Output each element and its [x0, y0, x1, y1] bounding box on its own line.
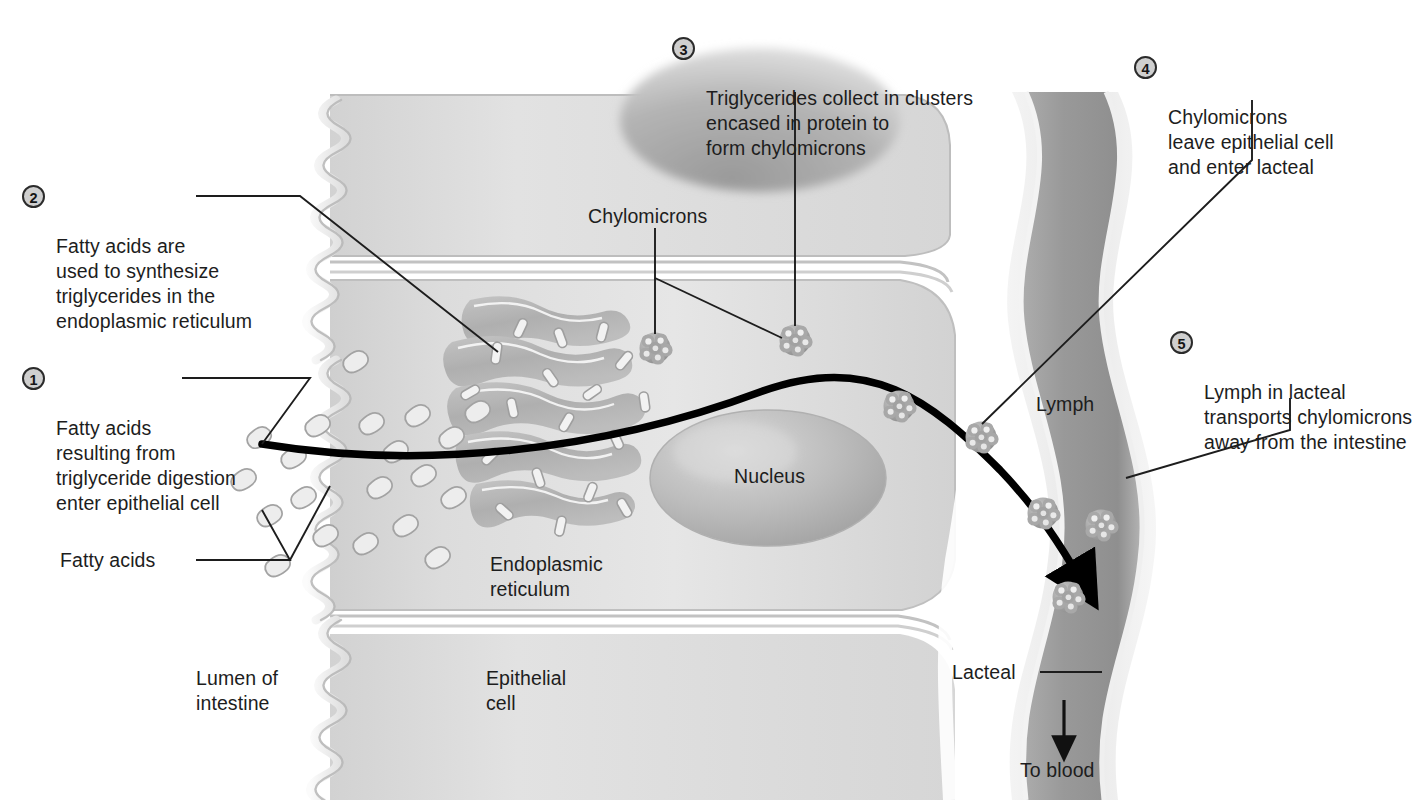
- label-lacteal: Lacteal: [952, 660, 1016, 685]
- label-nucleus: Nucleus: [734, 464, 805, 489]
- callout-step-5-text: Lymph in lacteal transports chylomicrons…: [1204, 381, 1412, 453]
- callout-step-4: 4 Chylomicrons leave epithelial cell and…: [1134, 55, 1412, 180]
- label-lumen-of-intestine: Lumen of intestine: [196, 666, 278, 716]
- callout-step-1-text: Fatty acids resulting from triglyceride …: [56, 417, 236, 514]
- step-badge-5: 5: [1170, 331, 1193, 354]
- label-epithelial-cell: Epithelial cell: [486, 666, 566, 716]
- label-chylomicrons: Chylomicrons: [588, 204, 707, 229]
- step-badge-1: 1: [22, 367, 45, 390]
- callout-step-1: 1 Fatty acids resulting from triglycerid…: [22, 366, 306, 516]
- step-badge-3: 3: [672, 37, 695, 60]
- label-lymph: Lymph: [1036, 392, 1094, 417]
- diagram-canvas: 1 Fatty acids resulting from triglycerid…: [0, 0, 1412, 800]
- label-endoplasmic-reticulum: Endoplasmic reticulum: [490, 552, 603, 602]
- label-fatty-acids: Fatty acids: [60, 548, 155, 573]
- epithelial-cell-lower: [330, 634, 955, 800]
- step-badge-2: 2: [22, 185, 45, 208]
- callout-step-3-text: Triglycerides collect in clusters encase…: [706, 87, 973, 159]
- callout-step-3: 3 Triglycerides collect in clusters enca…: [672, 36, 1066, 161]
- callout-step-2-text: Fatty acids are used to synthesize trigl…: [56, 235, 252, 332]
- step-badge-4: 4: [1134, 56, 1157, 79]
- callout-step-5: 5 Lymph in lacteal transports chylomicro…: [1170, 330, 1412, 455]
- callout-step-2: 2 Fatty acids are used to synthesize tri…: [22, 184, 324, 334]
- callout-step-4-text: Chylomicrons leave epithelial cell and e…: [1168, 106, 1334, 178]
- label-to-blood: To blood: [1020, 758, 1095, 783]
